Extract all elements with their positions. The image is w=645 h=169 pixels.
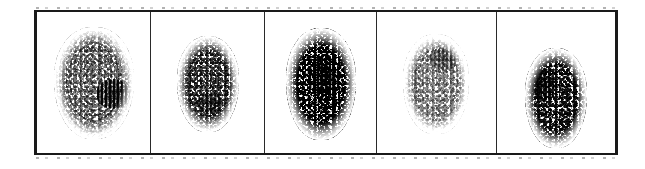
panel-cell-3[interactable] (265, 12, 378, 153)
fingerprint-impression-4 (403, 34, 469, 134)
scan-noise-top-edge (36, 7, 616, 9)
panel-cell-5[interactable] (497, 12, 615, 153)
core-smudge-3 (308, 54, 340, 100)
core-smudge-2 (197, 92, 223, 114)
fingerprint-impression-2 (177, 36, 239, 132)
fingerprint-impression-1 (54, 27, 134, 139)
ridge-flow-overlay (525, 48, 587, 148)
core-smudge-1 (96, 79, 130, 109)
panel-cell-4[interactable] (377, 12, 497, 153)
panel-cell-2[interactable] (151, 12, 265, 153)
fingerprint-impression-5 (525, 48, 587, 148)
fingerprint-figure (0, 0, 645, 169)
scan-noise-bottom-edge (36, 157, 616, 159)
ridge-flow-overlay (177, 36, 239, 132)
panel-strip (34, 10, 618, 155)
panel-cell-1[interactable] (37, 12, 151, 153)
fingerprint-impression-3 (286, 28, 356, 140)
